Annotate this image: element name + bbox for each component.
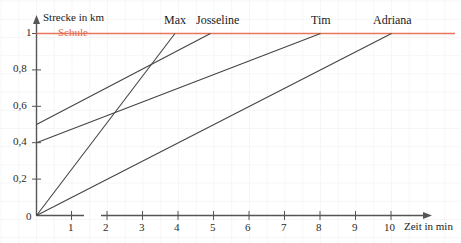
y-tick-label-1: 1 xyxy=(26,27,32,38)
x-tick-label-1: 1 xyxy=(68,222,74,233)
series-label-josseline: Josseline xyxy=(196,14,239,26)
series-label-tim: Tim xyxy=(311,14,331,26)
x-tick-label-7: 7 xyxy=(281,222,287,233)
series-label-adriana: Adriana xyxy=(373,14,412,26)
y-tick-label-0-8: 0,8 xyxy=(13,63,27,74)
x-tick-label-4: 4 xyxy=(174,222,180,233)
x-tick-label-6: 6 xyxy=(245,222,251,233)
y-tick-label-0-6: 0,6 xyxy=(13,100,27,111)
y-tick-label-0-4: 0,4 xyxy=(13,136,27,147)
x-tick-label-10: 10 xyxy=(384,222,395,233)
x-tick-label-3: 3 xyxy=(139,222,145,233)
y-tick-label-0: 0 xyxy=(26,211,32,222)
x-tick-label-2: 2 xyxy=(103,222,109,233)
distance-time-chart: Strecke in km Zeit in min Schule Max Jos… xyxy=(0,0,461,243)
x-axis-title: Zeit in min xyxy=(404,221,453,232)
x-tick-label-8: 8 xyxy=(316,222,322,233)
x-tick-label-5: 5 xyxy=(210,222,216,233)
y-tick-label-0-2: 0,2 xyxy=(13,173,27,184)
y-axis-title: Strecke in km xyxy=(43,12,104,23)
series-label-max: Max xyxy=(164,14,186,26)
x-tick-label-9: 9 xyxy=(352,222,358,233)
school-line-label: Schule xyxy=(58,27,88,38)
